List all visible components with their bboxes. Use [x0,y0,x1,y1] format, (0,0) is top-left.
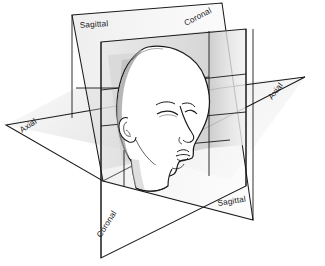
planes-diagram-svg: Sagittal Coronal Axial Axial Sagittal Co… [0,0,325,266]
anatomical-planes-figure: Sagittal Coronal Axial Axial Sagittal Co… [0,0,325,266]
coronal-plane-right-surface [209,29,246,148]
label-coronal-bottom: Coronal [95,209,118,239]
